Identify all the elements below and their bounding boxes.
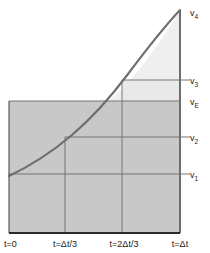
xtick-label-0: t=0 bbox=[4, 239, 17, 249]
label-v4-sub: 4 bbox=[195, 13, 199, 20]
velocity-time-chart: v4 v3 vE v2 v1 t=0 t=Δt/3 t=2Δt/3 t=Δt bbox=[0, 0, 210, 253]
xtick-label-3: t=Δt bbox=[172, 239, 189, 249]
xtick-label-1: t=Δt/3 bbox=[53, 239, 77, 249]
label-vE-sub: E bbox=[195, 102, 200, 109]
label-v1-sub: 1 bbox=[195, 175, 199, 182]
block-v3 bbox=[122, 80, 180, 101]
label-v3-sub: 3 bbox=[195, 81, 199, 88]
chart-canvas: v4 v3 vE v2 v1 t=0 t=Δt/3 t=2Δt/3 t=Δt bbox=[0, 0, 210, 253]
label-v2-sub: 2 bbox=[195, 138, 199, 145]
xtick-label-2: t=2Δt/3 bbox=[110, 239, 139, 249]
